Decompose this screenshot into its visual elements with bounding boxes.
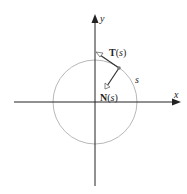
unit-circle-diagram: y x T(s) N(s) s (0, 0, 187, 194)
curve-point (117, 66, 121, 70)
arc-length-label: s (135, 74, 139, 85)
tangent-label: T(s) (109, 47, 126, 59)
normal-arrow-icon (105, 83, 110, 89)
x-axis-label: x (173, 89, 179, 100)
y-axis-arrow-icon (92, 14, 99, 23)
normal-vector (107, 68, 119, 86)
y-axis-label: y (99, 13, 105, 24)
normal-label: N(s) (100, 92, 118, 104)
